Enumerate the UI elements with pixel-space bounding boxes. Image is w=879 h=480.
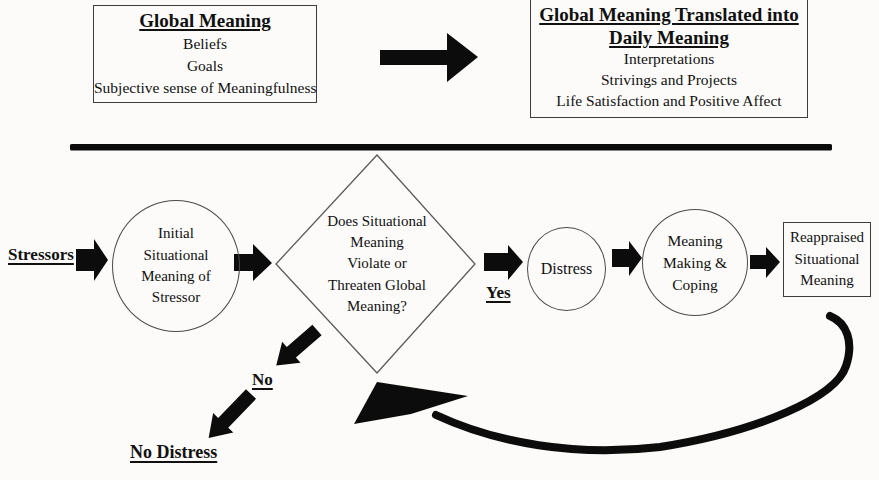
reappraised-meaning-node: Reappraised Situational Meaning — [783, 222, 871, 297]
meaning-making-text: Meaning Making & Coping — [663, 230, 727, 296]
global-meaning-item: Goals — [94, 55, 316, 77]
to-reappraised-arrow-icon — [750, 247, 780, 278]
yes-label: Yes — [486, 283, 511, 303]
daily-meaning-box: Global Meaning Translated into Daily Mea… — [530, 0, 808, 118]
global-meaning-item: Beliefs — [94, 33, 316, 55]
daily-meaning-item: Interpretations — [531, 49, 807, 70]
right-arrow-icon — [380, 33, 478, 82]
global-meaning-items: Beliefs Goals Subjective sense of Meanin… — [94, 33, 316, 98]
no-distress-arrow-icon — [199, 384, 262, 447]
initial-meaning-text: Initial Situational Meaning of Stressor — [141, 223, 211, 308]
stressors-label: Stressors — [8, 245, 74, 265]
global-meaning-item: Subjective sense of Meaningfulness — [94, 77, 316, 99]
feedback-curve — [436, 316, 849, 450]
daily-meaning-title: Global Meaning Translated into Daily Mea… — [531, 0, 807, 49]
daily-meaning-items: Interpretations Strivings and Projects L… — [531, 49, 807, 112]
meaning-model-diagram: Global Meaning Beliefs Goals Subjective … — [0, 0, 879, 480]
to-meaning-making-arrow-icon — [612, 241, 642, 276]
yes-arrow-icon — [484, 245, 523, 280]
daily-meaning-item: Strivings and Projects — [531, 70, 807, 91]
no-distress-label: No Distress — [130, 442, 217, 463]
daily-meaning-item: Life Satisfaction and Positive Affect — [531, 91, 807, 112]
appraisal-question-text: Does Situational Meaning Violate or Thre… — [310, 203, 444, 325]
reappraised-meaning-text: Reappraised Situational Meaning — [790, 227, 864, 292]
global-meaning-title: Global Meaning — [94, 6, 316, 33]
global-meaning-box: Global Meaning Beliefs Goals Subjective … — [93, 5, 317, 103]
distress-node: Distress — [527, 227, 606, 311]
no-branch-arrow-icon — [267, 319, 326, 376]
stressors-arrow-icon — [76, 239, 108, 281]
distress-text: Distress — [541, 258, 593, 281]
initial-meaning-node: Initial Situational Meaning of Stressor — [112, 200, 240, 332]
meaning-making-node: Meaning Making & Coping — [642, 209, 748, 316]
section-divider — [70, 144, 832, 151]
no-label: No — [252, 370, 273, 390]
